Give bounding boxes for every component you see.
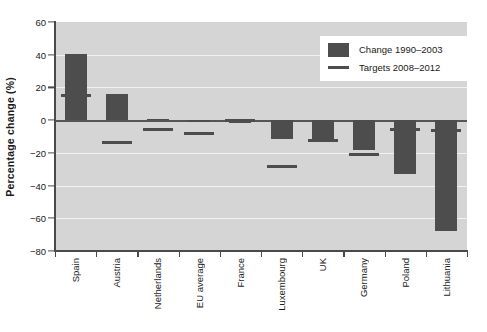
legend-item-change: Change 1990–2003 (328, 42, 461, 58)
x-axis-category-label-text: Luxembourg (276, 258, 287, 311)
bar (435, 120, 457, 231)
y-axis-tick-mark (48, 218, 54, 219)
legend-item-targets: Targets 2008–2012 (328, 59, 461, 75)
x-axis-tick-mark (179, 251, 180, 257)
x-axis-category-label-text: Germany (358, 258, 369, 297)
y-axis-tick-mark (48, 185, 54, 186)
x-axis-category-label: EU average (179, 258, 220, 328)
bar (147, 119, 169, 120)
bar (312, 120, 334, 140)
bar (353, 120, 375, 150)
x-axis-category-label: Poland (385, 258, 426, 328)
y-axis-tick-mark (48, 250, 54, 251)
x-axis-tick-mark (96, 251, 97, 257)
x-axis-category-label: Germany (343, 258, 384, 328)
y-axis-tick-label: −20 (0, 147, 46, 158)
x-axis-category-label: Lithuania (426, 258, 467, 328)
target-marker (349, 153, 379, 156)
x-axis-category-label-text: Poland (400, 258, 411, 288)
y-axis-title-text: Percentage change (%) (4, 77, 16, 197)
bar (106, 94, 128, 120)
target-marker (390, 128, 420, 131)
y-axis-tick-mark (48, 87, 54, 88)
legend-bar-swatch-icon (328, 43, 349, 57)
y-axis-tick-label: 40 (0, 49, 46, 60)
target-marker (431, 129, 461, 132)
target-marker (267, 165, 297, 168)
legend-line-swatch-icon (328, 66, 349, 69)
legend-item-targets-label: Targets 2008–2012 (359, 62, 440, 73)
legend-item-change-label: Change 1990–2003 (359, 44, 442, 55)
x-axis-category-label: UK (302, 258, 343, 328)
x-axis-tick-mark (385, 251, 386, 257)
target-marker (61, 94, 91, 97)
x-axis-tick-mark (343, 251, 344, 257)
x-axis-tick-mark (302, 251, 303, 257)
gridline (55, 87, 467, 88)
y-axis-line (54, 21, 56, 252)
bar (65, 54, 87, 120)
gridline (55, 218, 467, 219)
y-axis-tick-label: −80 (0, 246, 46, 257)
y-axis-tick-label: 60 (0, 17, 46, 28)
x-axis-category-label: Luxembourg (261, 258, 302, 328)
x-axis-category-label-text: EU average (194, 258, 205, 308)
x-axis-category-label: Netherlands (137, 258, 178, 328)
target-marker (308, 139, 338, 142)
target-marker (225, 119, 255, 122)
x-axis-category-label: Spain (55, 258, 96, 328)
x-axis-category-label-text: Lithuania (441, 258, 452, 297)
x-axis-tick-mark (220, 251, 221, 257)
x-axis-category-label: Austria (96, 258, 137, 328)
y-axis-tick-label: −40 (0, 180, 46, 191)
x-axis-tick-mark (467, 251, 468, 257)
y-axis-tick-mark (48, 21, 54, 22)
bar (271, 120, 293, 139)
bar (188, 120, 210, 122)
x-axis-category-label-text: Netherlands (152, 258, 163, 309)
y-axis-tick-mark (48, 120, 54, 121)
y-axis-tick-label: 0 (0, 115, 46, 126)
x-axis-tick-mark (261, 251, 262, 257)
y-axis-tick-label: −60 (0, 213, 46, 224)
x-axis-category-label-text: France (235, 258, 246, 288)
x-axis-category-label-text: Spain (70, 258, 81, 282)
target-marker (102, 141, 132, 144)
x-axis-tick-mark (426, 251, 427, 257)
gridline (55, 186, 467, 187)
y-axis-tick-mark (48, 152, 54, 153)
x-axis-category-label-text: UK (317, 258, 328, 271)
y-axis-tick-label: 20 (0, 82, 46, 93)
bar-chart: Percentage change (%) 6040200−20−40−60−8… (0, 0, 487, 332)
target-marker (143, 128, 173, 131)
x-axis-tick-mark (55, 251, 56, 257)
target-marker (184, 132, 214, 135)
legend: Change 1990–2003 Targets 2008–2012 (320, 36, 469, 81)
x-axis-category-label-text: Austria (111, 258, 122, 288)
x-axis-category-label: France (220, 258, 261, 328)
x-axis-tick-mark (137, 251, 138, 257)
y-axis-tick-mark (48, 54, 54, 55)
